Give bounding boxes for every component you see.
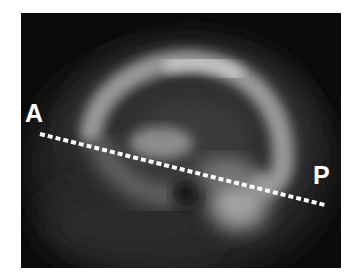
brain-scan-graphic — [21, 13, 341, 268]
anterior-label: A — [25, 101, 43, 126]
posterior-label: P — [313, 163, 330, 188]
brain-scan-image — [21, 13, 341, 268]
